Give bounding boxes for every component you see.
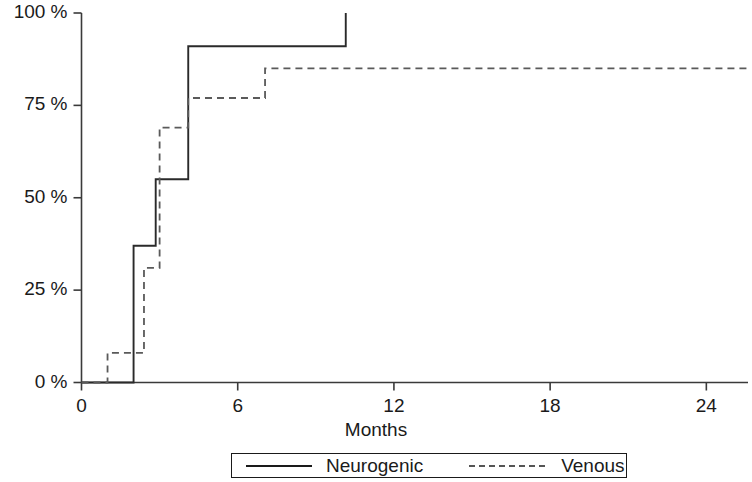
legend-swatch-dashed-line-icon bbox=[469, 459, 545, 473]
series-line-venous bbox=[82, 68, 749, 382]
y-axis-tick-label: 0 % bbox=[35, 371, 68, 393]
y-axis-tick-label: 75 % bbox=[24, 93, 67, 115]
x-axis-tick-label: 18 bbox=[510, 395, 590, 417]
x-axis-tick-label: 0 bbox=[42, 395, 122, 417]
y-axis-tick-label: 50 % bbox=[24, 186, 67, 208]
legend-entry-neurogenic: Neurogenic bbox=[246, 455, 423, 477]
series-line-neurogenic bbox=[82, 13, 346, 383]
x-axis-ticks bbox=[82, 383, 707, 391]
legend: Neurogenic Venous bbox=[231, 453, 627, 478]
y-axis-tick-label: 25 % bbox=[24, 278, 67, 300]
y-axis-tick-label: 100 % bbox=[14, 1, 68, 23]
x-axis-title: Months bbox=[0, 419, 752, 441]
legend-label-venous: Venous bbox=[561, 455, 624, 477]
legend-label-neurogenic: Neurogenic bbox=[326, 455, 423, 477]
legend-entry-venous: Venous bbox=[469, 455, 624, 477]
kaplan-meier-chart: 0 %25 %50 %75 %100 % 06121824 Months Neu… bbox=[0, 0, 752, 482]
x-axis-tick-label: 6 bbox=[198, 395, 278, 417]
x-axis-tick-label: 12 bbox=[354, 395, 434, 417]
y-axis-ticks bbox=[74, 13, 82, 383]
legend-swatch-solid-line-icon bbox=[246, 459, 312, 473]
x-axis-tick-label: 24 bbox=[666, 395, 746, 417]
